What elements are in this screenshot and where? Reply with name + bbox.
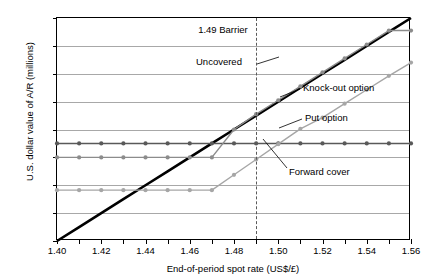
data-point — [343, 56, 347, 60]
data-point — [121, 188, 125, 192]
x-tick-label: 1.48 — [214, 246, 254, 256]
data-point — [121, 141, 125, 145]
chart-figure: U.S. dollar value of A/R (millions) End-… — [0, 0, 423, 280]
barrier-line — [256, 18, 257, 239]
data-point — [143, 155, 147, 159]
x-tick-label: 1.54 — [347, 246, 387, 256]
data-point — [387, 74, 391, 78]
knock-out-option-label: Knock-out option — [303, 82, 374, 93]
data-point — [298, 127, 302, 131]
x-tick-label: 1.44 — [126, 246, 166, 256]
data-point — [188, 141, 192, 145]
data-point — [99, 141, 103, 145]
data-point — [320, 70, 324, 74]
data-point — [143, 141, 147, 145]
data-point — [188, 155, 192, 159]
x-tick-label: 1.46 — [170, 246, 210, 256]
data-point — [166, 141, 170, 145]
x-axis-title: End-of-period spot rate (US$/£) — [56, 263, 410, 274]
plot-area: 1.401.421.441.461.481.501.521.541.56 1.4… — [56, 17, 410, 240]
data-point — [121, 155, 125, 159]
data-point — [387, 141, 391, 145]
data-point — [343, 102, 347, 106]
data-point — [298, 141, 302, 145]
x-tick-mark — [411, 239, 412, 244]
data-point — [365, 42, 369, 46]
data-point — [77, 141, 81, 145]
data-point — [409, 61, 413, 65]
data-point — [166, 155, 170, 159]
data-point — [232, 127, 236, 131]
data-point — [55, 141, 59, 145]
put-option-label: Put option — [305, 112, 348, 123]
data-point — [387, 28, 391, 32]
barrier-label: 1.49 Barrier — [198, 24, 248, 35]
data-point — [320, 141, 324, 145]
data-point — [409, 28, 413, 32]
x-tick-label: 1.50 — [258, 246, 298, 256]
data-point — [77, 188, 81, 192]
data-point — [143, 188, 147, 192]
data-point — [166, 188, 170, 192]
data-point — [365, 141, 369, 145]
data-point — [276, 142, 280, 146]
data-point — [55, 155, 59, 159]
data-point — [232, 141, 236, 145]
data-point — [188, 188, 192, 192]
x-tick-label: 1.56 — [391, 246, 423, 256]
data-point — [55, 188, 59, 192]
data-point — [210, 188, 214, 192]
data-point — [99, 188, 103, 192]
y-axis-title: U.S. dollar value of A/R (millions) — [24, 12, 35, 212]
forward-cover-label: Forward cover — [289, 166, 350, 177]
leader-line — [280, 89, 300, 97]
data-point — [276, 98, 280, 102]
series-put-option — [55, 61, 413, 193]
data-point — [298, 84, 302, 88]
data-point — [409, 141, 413, 145]
series-line — [57, 31, 411, 158]
data-point — [210, 155, 214, 159]
data-point — [210, 141, 214, 145]
leader-line — [257, 57, 279, 64]
x-tick-label: 1.40 — [37, 246, 77, 256]
data-point — [99, 155, 103, 159]
leader-line — [279, 119, 302, 128]
series-layer — [57, 18, 411, 241]
series-forward-cover — [55, 141, 413, 145]
x-tick-label: 1.42 — [81, 246, 121, 256]
data-point — [77, 155, 81, 159]
x-tick-label: 1.52 — [303, 246, 343, 256]
data-point — [232, 173, 236, 177]
data-point — [343, 141, 347, 145]
uncovered-label: Uncovered — [196, 56, 242, 67]
